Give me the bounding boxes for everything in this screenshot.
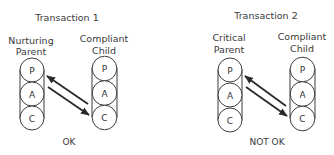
ego-label-p: P [102,64,108,74]
transaction-2: Transaction 2 Critical Parent Compliant … [212,10,326,147]
receiver-label-line1: Compliant [278,31,327,42]
ego-label-a: A [227,91,234,101]
receiver-label-line2: Child [92,45,116,56]
receiver-ego-stack: P A C [290,57,315,131]
sender-ego-stack: P A C [20,58,44,130]
ego-label-c: C [29,114,35,124]
ego-label-p: P [227,66,233,76]
transaction-2-verdict: NOT OK [249,137,285,147]
ego-label-c: C [299,114,305,124]
ego-label-a: A [299,90,306,100]
transactional-analysis-diagram: Transaction 1 Nurturing Parent Compliant… [0,0,334,155]
transaction-1: Transaction 1 Nurturing Parent Compliant… [8,12,128,147]
sender-label-line2: Parent [214,44,245,55]
receiver-label-line1: Compliant [80,33,129,44]
transaction-2-title: Transaction 2 [233,10,297,21]
ego-label-p: P [29,66,35,76]
transaction-1-verdict: OK [63,137,77,147]
ego-label-p: P [300,65,306,75]
sender-label-line1: Nurturing [8,35,53,46]
receiver-ego-stack: P A C [92,56,117,130]
receiver-label-line2: Child [290,43,314,54]
sender-label-line1: Critical [212,32,245,43]
ego-label-a: A [101,89,108,99]
sender-ego-stack: P A C [218,58,242,132]
ego-label-a: A [29,90,36,100]
ego-label-c: C [101,113,107,123]
sender-label-line2: Parent [16,46,47,57]
transaction-1-title: Transaction 1 [34,12,98,23]
ego-label-c: C [227,116,233,126]
